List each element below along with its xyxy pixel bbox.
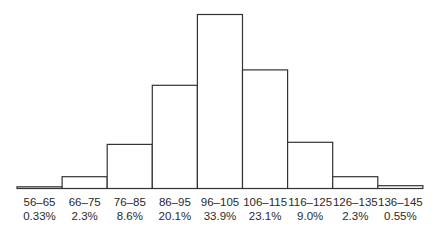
histogram-bar-96–105	[197, 15, 242, 189]
category-label: 56–65	[24, 196, 56, 208]
category-label: 66–75	[69, 196, 101, 208]
percentage-label: 0.33%	[23, 210, 56, 222]
percentage-label: 2.3%	[342, 210, 368, 222]
category-label: 126–135	[333, 196, 378, 208]
percentage-label: 2.3%	[72, 210, 98, 222]
labels-group: 56–650.33%66–752.3%76–858.6%86–9520.1%96…	[23, 196, 423, 222]
category-label: 76–85	[114, 196, 146, 208]
category-label: 136–145	[378, 196, 423, 208]
percentage-label: 20.1%	[159, 210, 192, 222]
histogram-bar-116–125	[288, 142, 333, 188]
category-label: 86–95	[159, 196, 191, 208]
percentage-label: 9.0%	[297, 210, 323, 222]
histogram-bar-126–135	[333, 177, 378, 189]
histogram-chart: 56–650.33%66–752.3%76–858.6%86–9520.1%96…	[0, 0, 438, 229]
percentage-label: 23.1%	[249, 210, 282, 222]
percentage-label: 33.9%	[204, 210, 237, 222]
percentage-label: 0.55%	[384, 210, 417, 222]
histogram-bar-86–95	[152, 85, 197, 188]
histogram-bar-76–85	[107, 144, 152, 188]
bars-group	[17, 15, 423, 189]
category-label: 116–125	[288, 196, 332, 208]
category-label: 96–105	[201, 196, 239, 208]
histogram-bar-66–75	[62, 177, 107, 189]
category-label: 106–115	[243, 196, 287, 208]
percentage-label: 8.6%	[117, 210, 143, 222]
histogram-bar-106–115	[243, 70, 288, 189]
